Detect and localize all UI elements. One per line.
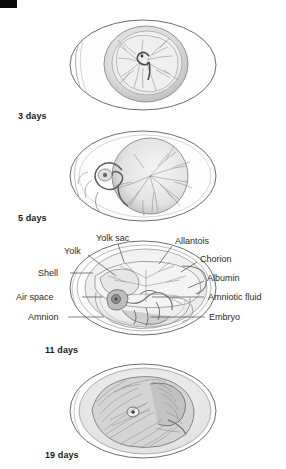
annotation-label-albumin: Albumin — [207, 273, 240, 283]
figure-canvas: 3 days 5 days 11 days 19 days Yolk sac A… — [0, 0, 286, 469]
egg-diagram-19-days — [0, 362, 286, 462]
egg-diagram-3-days — [0, 0, 286, 125]
annotation-label-allantois: Allantois — [175, 236, 209, 246]
annotation-label-amnion: Amnion — [28, 312, 59, 322]
annotation-label-shell: Shell — [38, 268, 58, 278]
stage-label-3-days: 3 days — [18, 111, 47, 121]
annotation-label-embryo: Embryo — [209, 312, 240, 322]
egg-diagram-5-days — [0, 130, 286, 225]
stage-label-11-days: 11 days — [45, 345, 78, 355]
stage-label-5-days: 5 days — [18, 213, 47, 223]
annotation-label-yolk: Yolk — [64, 246, 81, 256]
annotation-label-amniotic-fluid: Amniotic fluid — [208, 292, 262, 302]
stage-label-19-days: 19 days — [45, 450, 79, 460]
annotation-label-chorion: Chorion — [200, 254, 232, 264]
annotation-label-yolk-sac: Yolk sac — [96, 233, 129, 243]
annotation-label-air-space: Air space — [16, 292, 54, 302]
